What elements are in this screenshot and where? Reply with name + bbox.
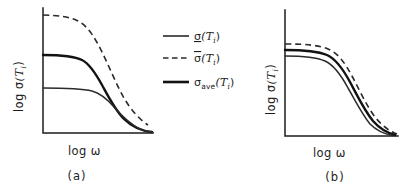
panel-a-y-axis-label: log σ(Ti): [12, 61, 28, 112]
legend-label-average: σave(Ti): [194, 76, 235, 91]
panel-b: log σ(Ti) log ω (b): [264, 10, 398, 184]
legend-entry-lower-bound: σ(Ti): [163, 30, 220, 45]
panel-b-curve-upper-bound: [285, 44, 397, 134]
panel-b-y-axis-label: log σ(Ti): [264, 64, 280, 115]
legend-arg-close-1: ): [216, 52, 221, 65]
panel-b-ylabel-arg: (T: [264, 71, 278, 85]
panel-b-ylabel-sigma: σ: [264, 85, 278, 93]
legend-sigma-ave: σ: [194, 76, 201, 89]
legend-entry-average: σave(Ti): [163, 76, 235, 91]
panel-a-x-axis-label: log ω: [68, 144, 101, 158]
panel-a-ylabel-sigma: σ: [12, 82, 26, 90]
legend-sigma-overline: σ: [194, 52, 201, 65]
legend-sigma-ave-sub: ave: [201, 82, 215, 91]
figure-canvas: log σ(Ti) log ω (a) σ(Ti) σ(Ti): [0, 0, 412, 191]
legend-label-upper-bound: σ(Ti): [194, 52, 220, 67]
panel-a-curve-lower-bound: [43, 88, 153, 133]
legend-entry-upper-bound: σ(Ti): [163, 52, 220, 67]
legend-arg-close-2: ): [230, 76, 235, 89]
panel-b-x-axis-label: log ω: [313, 146, 346, 160]
panel-a-curve-upper-bound: [43, 15, 148, 125]
legend-arg-close-0: ): [216, 30, 221, 43]
panel-a-ylabel-log: log: [12, 89, 26, 112]
panel-a-ylabel-arg: (T: [12, 68, 26, 82]
panel-b-caption: (b): [325, 170, 344, 184]
legend-sigma-underline: σ: [194, 30, 201, 43]
panel-b-axes: [285, 10, 398, 136]
panel-b-ylabel-close: ): [264, 64, 278, 69]
legend-label-lower-bound: σ(Ti): [194, 30, 220, 45]
panel-b-curve-average: [285, 50, 395, 135]
panel-b-ylabel-log: log: [264, 92, 278, 115]
figure-root: log σ(Ti) log ω (a) σ(Ti) σ(Ti): [0, 0, 412, 191]
legend: σ(Ti) σ(Ti) σave(Ti): [163, 30, 235, 91]
panel-a-axes: [43, 8, 153, 133]
panel-a-ylabel-close: ): [12, 61, 26, 66]
panel-a: log σ(Ti) log ω (a): [12, 8, 153, 183]
panel-a-caption: (a): [67, 169, 86, 183]
